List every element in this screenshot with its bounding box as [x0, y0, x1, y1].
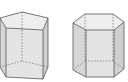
hexagonal-prism	[73, 14, 124, 77]
pentagonal-prism	[0, 12, 48, 79]
prisms-diagram	[0, 0, 128, 82]
